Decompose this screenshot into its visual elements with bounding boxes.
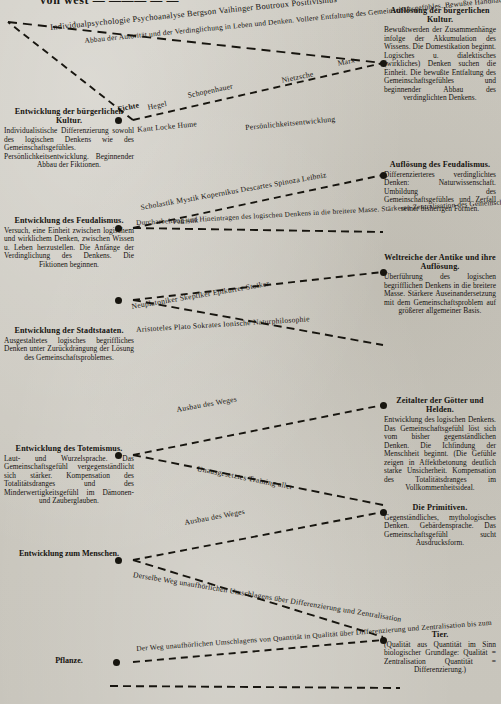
node-dot-tier <box>380 637 387 644</box>
edge-caption-persoenlichkeitsentwicklung: Persönlichkeitsentwicklung <box>245 115 336 132</box>
node-stadtstaaten: Entwicklung der Stadtstaaten. Ausgestalt… <box>4 326 134 362</box>
node-dot-die-primitiven <box>380 509 387 516</box>
node-dot-aufloesung-buergerliche-kultur <box>380 60 387 67</box>
node-dot-feudalismus <box>115 225 122 232</box>
node-body: Individualistische Differenzierung sowoh… <box>4 127 134 170</box>
node-body: Ausgestaltetes logisches begriffliches D… <box>4 337 134 363</box>
edge-caption-derselbe-weg: Derselbe Weg unaufhörlichen Umschlagens … <box>132 570 380 621</box>
node-title: Entwicklung des Totemismus. <box>4 444 134 453</box>
edge-caption-ausbau-des-weges-1: Ausbau des Weges <box>176 395 238 414</box>
node-title: Entwicklung des Feudalismus. <box>4 216 134 225</box>
node-buergerliche-kultur: Entwicklung der bürgerlichen Kultur. Ind… <box>4 107 134 170</box>
node-dot-aufloesung-feudalismus <box>380 172 387 179</box>
edge-caption-stadtstaaten-names: Neuplatoniker Skeptiker Epikurrer Stoike… <box>131 280 270 312</box>
node-body: Laut- und Wurzelsprache. Das Gemeinschaf… <box>4 455 134 506</box>
edge-caption-unausgesetztes-training: Unausgesetztes Training aller <box>196 465 293 492</box>
diagram-page: von west — ——— — — <box>0 0 501 704</box>
node-dot-pflanze <box>113 659 120 666</box>
node-tier: Tier. (Qualität aus Quantität im Sinn bi… <box>384 630 496 675</box>
node-weltreiche-antike: Weltreiche der Antike und ihre Auflösung… <box>384 253 496 316</box>
node-feudalismus: Entwicklung des Feudalismus. Versuch, ei… <box>4 216 134 269</box>
edge-caption-der-weg: Der Weg unaufhörlichen Umschlagens von Q… <box>136 625 398 653</box>
edge-caption-hegel: Hegel <box>147 100 168 112</box>
node-body: Überführung des logischen begrifflichen … <box>384 273 496 316</box>
node-title: Die Primitiven. <box>384 503 496 512</box>
edge-caption-kant-locke-hume: Kant Locke Hume <box>137 120 197 134</box>
node-dot-buergerliche-kultur <box>115 117 122 124</box>
edge-caption-feudalismus-names: Scholastik Mystik Kopernikus Descartes S… <box>140 171 327 212</box>
edge-caption-nietzsche: Nietzsche <box>281 70 314 85</box>
node-body: Gegenständliches, mythologisches Denken.… <box>384 514 496 548</box>
edge-caption-marx: Marx <box>337 56 356 68</box>
node-dot-zum-menschen <box>115 557 122 564</box>
node-title: Auflösung des Feudalismus. <box>384 160 496 169</box>
node-dot-zeitalter-goetter-helden <box>380 402 387 409</box>
node-body: Entwicklung des logischen Denkens. Das G… <box>384 416 496 493</box>
node-dot-totemismus <box>115 452 122 459</box>
node-dot-stadtstaaten <box>115 297 122 304</box>
edge-caption-feudalismus-text: Durcharbeitung und Hineintragen des logi… <box>136 204 398 228</box>
edge-caption-schopenhauer: Schopenhauer <box>187 82 234 100</box>
node-title: Entwicklung der Stadtstaaten. <box>4 326 134 335</box>
node-title: Weltreiche der Antike und ihre Auflösung… <box>384 253 496 272</box>
node-body: (Qualität aus Quantität im Sinn biologis… <box>384 641 496 675</box>
node-zum-menschen: Entwicklung zum Menschen. <box>4 549 134 558</box>
node-title: Zeitalter der Götter und Helden. <box>384 396 496 415</box>
node-dot-weltreiche-antike <box>380 269 387 276</box>
node-title: Entwicklung der bürgerlichen Kultur. <box>4 107 134 126</box>
node-body: Bewußtwerden der Zusammenhänge infolge d… <box>384 26 496 103</box>
edge-caption-stadtstaaten-names-b: Aristoteles Plato Sokrates Ionische Natu… <box>136 315 310 334</box>
node-die-primitiven: Die Primitiven. Gegenständliches, mythol… <box>384 503 496 548</box>
node-zeitalter-goetter-helden: Zeitalter der Götter und Helden. Entwick… <box>384 396 496 493</box>
node-body: Versuch, eine Einheit zwischen logischem… <box>4 227 134 270</box>
edge-caption-ausbau-des-weges-2: Ausbau des Weges <box>184 508 246 528</box>
node-aufloesung-buergerliche-kultur: Auflösung der bürgerlichen Kultur. Bewuß… <box>384 6 496 103</box>
